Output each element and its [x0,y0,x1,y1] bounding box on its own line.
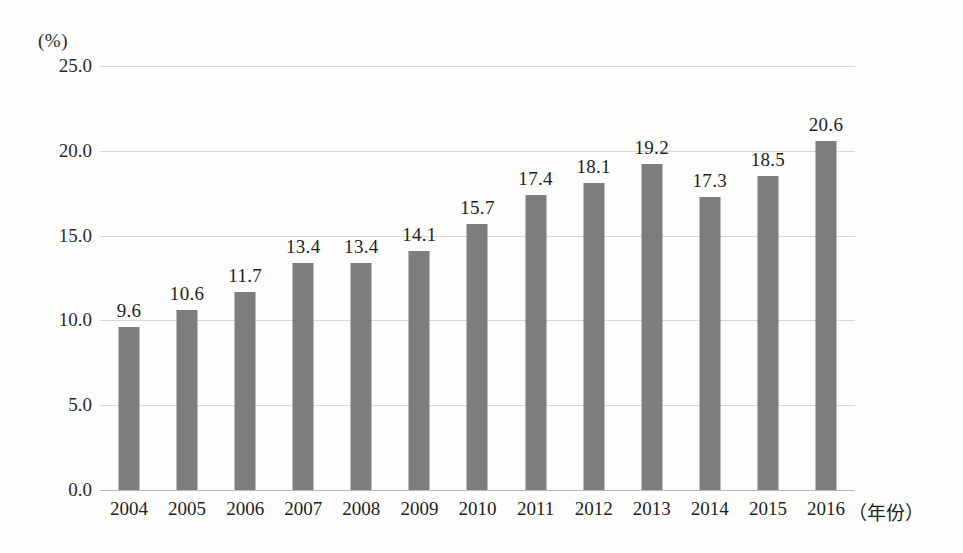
bar-value-label: 13.4 [286,236,320,258]
x-axis-tick-label: 2005 [158,498,216,520]
y-axis-tick-label: 10.0 [34,309,92,331]
x-axis-tick-label: 2006 [216,498,274,520]
bar-value-label: 19.2 [634,137,668,159]
x-axis-title: （年份） [848,498,924,525]
x-axis-tick-labels: 2004200520062007200820092010201120122013… [100,498,855,528]
bar-chart: (%) 0.05.010.015.020.025.0 9.610.611.713… [0,0,963,553]
bar-value-label: 18.5 [751,149,785,171]
bar [757,176,778,490]
bar-value-label: 20.6 [809,114,843,136]
x-axis-tick-label: 2015 [739,498,797,520]
axis-baseline [100,490,855,491]
x-axis-tick-label: 2009 [390,498,448,520]
y-axis-tick-label: 25.0 [34,55,92,77]
bars-layer: 9.610.611.713.413.414.115.717.418.119.21… [100,66,855,490]
bar-group: 9.6 [100,66,158,490]
bar-group: 13.4 [332,66,390,490]
x-axis-tick-label: 2013 [623,498,681,520]
x-axis-tick-label: 2012 [565,498,623,520]
x-axis-tick-label: 2010 [448,498,506,520]
bar [351,263,372,490]
x-axis-tick-label: 2008 [332,498,390,520]
x-axis-tick-label: 2004 [100,498,158,520]
bar-value-label: 10.6 [170,283,204,305]
x-axis-tick-label: 2007 [274,498,332,520]
bar-value-label: 15.7 [460,197,494,219]
y-axis-tick-label: 15.0 [34,225,92,247]
x-axis-tick-label: 2011 [507,498,565,520]
bar-value-label: 14.1 [402,224,436,246]
bar-value-label: 11.7 [228,265,262,287]
bar-value-label: 9.6 [117,300,142,322]
x-axis-tick-label: 2014 [681,498,739,520]
bar-group: 14.1 [390,66,448,490]
bar [641,164,662,490]
bar-group: 18.5 [739,66,797,490]
y-axis-unit-label: (%) [38,30,68,52]
bar-value-label: 17.3 [693,170,727,192]
bar [525,195,546,490]
bar [815,141,836,490]
bar [467,224,488,490]
bar-group: 19.2 [623,66,681,490]
bar-group: 11.7 [216,66,274,490]
bar [177,310,198,490]
bar-group: 13.4 [274,66,332,490]
bar [583,183,604,490]
bar [409,251,430,490]
bar-value-label: 18.1 [576,156,610,178]
y-axis-tick-labels: 0.05.010.015.020.025.0 [30,66,92,490]
bar [699,197,720,490]
bar [119,327,140,490]
bar-group: 20.6 [797,66,855,490]
bar-value-label: 13.4 [344,236,378,258]
bar-group: 15.7 [448,66,506,490]
y-axis-tick-label: 5.0 [34,394,92,416]
bar-group: 17.4 [507,66,565,490]
x-axis-tick-label: 2016 [797,498,855,520]
bar-group: 17.3 [681,66,739,490]
bar-value-label: 17.4 [518,168,552,190]
y-axis-tick-label: 0.0 [34,479,92,501]
bar-group: 18.1 [565,66,623,490]
y-axis-tick-label: 20.0 [34,140,92,162]
bar [235,292,256,490]
bar-group: 10.6 [158,66,216,490]
bar [293,263,314,490]
